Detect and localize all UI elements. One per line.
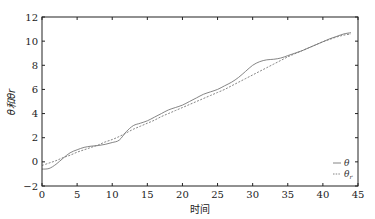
legend-label: θr bbox=[344, 169, 353, 180]
x-tick-label: 40 bbox=[317, 189, 330, 200]
x-tick-label: 45 bbox=[352, 189, 365, 200]
x-tick-label: 10 bbox=[106, 189, 119, 200]
plot-area bbox=[42, 33, 351, 169]
y-tick-label: 12 bbox=[25, 12, 38, 23]
plot-frame bbox=[42, 17, 358, 186]
x-tick-label: 20 bbox=[176, 189, 189, 200]
ticks: 051015202530354045−2024681012 bbox=[23, 12, 364, 201]
y-tick-label: 4 bbox=[32, 108, 38, 119]
axes bbox=[42, 17, 358, 186]
x-tick-label: 30 bbox=[246, 189, 259, 200]
y-tick-label: −2 bbox=[23, 181, 38, 192]
x-axis-label: 时间 bbox=[190, 203, 210, 215]
y-tick-label: 6 bbox=[32, 84, 38, 95]
series-theta-r-line bbox=[42, 34, 351, 166]
legend: θθr bbox=[333, 158, 353, 180]
x-tick-label: 0 bbox=[39, 189, 45, 200]
x-tick-label: 5 bbox=[74, 189, 80, 200]
line-chart: 051015202530354045−2024681012 时间 θ和θr θθ… bbox=[0, 0, 375, 219]
y-tick-label: 2 bbox=[32, 132, 38, 143]
x-tick-label: 35 bbox=[281, 189, 294, 200]
y-tick-label: 8 bbox=[32, 60, 38, 71]
y-tick-label: 0 bbox=[32, 156, 38, 167]
x-tick-label: 15 bbox=[141, 189, 154, 200]
legend-label: θ bbox=[344, 158, 350, 168]
y-axis-label: θ和θr bbox=[6, 88, 17, 115]
x-tick-label: 25 bbox=[211, 189, 224, 200]
y-tick-label: 10 bbox=[25, 36, 38, 47]
